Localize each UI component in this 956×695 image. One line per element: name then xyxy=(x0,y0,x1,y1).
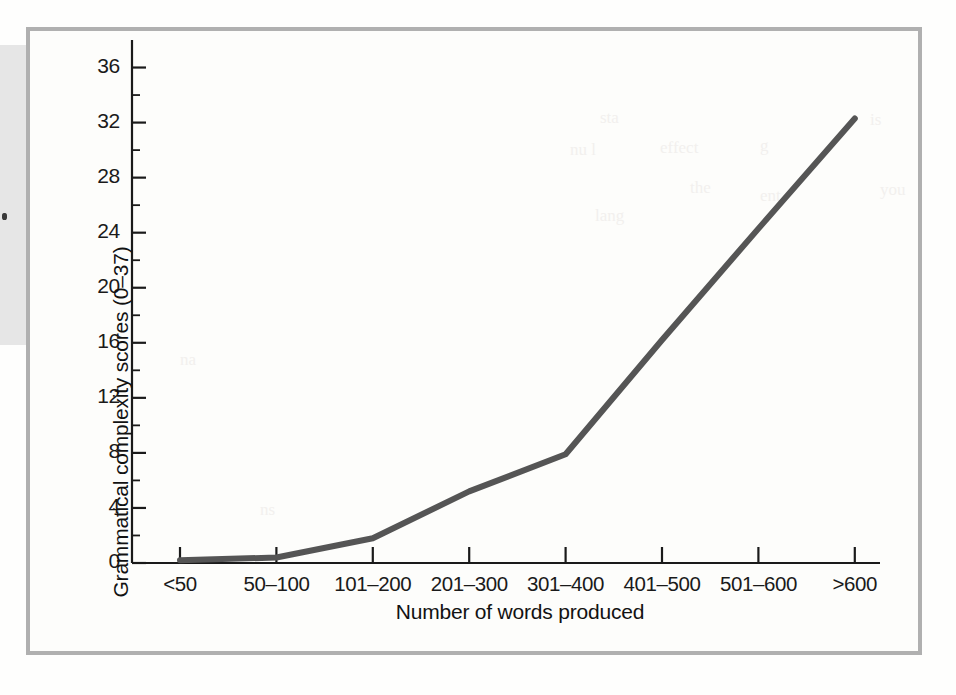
scan-speck-artifact xyxy=(2,213,7,220)
x-axis-title: Number of words produced xyxy=(180,600,860,624)
page-edge-shadow-band xyxy=(0,45,28,345)
y-axis-title-wrapper: Grammatical complexity scores (0–37) xyxy=(68,110,92,510)
y-axis-title: Grammatical complexity scores (0–37) xyxy=(109,232,133,612)
bleed-through-text: is xyxy=(870,110,881,130)
bleed-through-text: lang xyxy=(595,206,624,226)
bleed-through-text: g xyxy=(760,136,769,156)
bleed-through-text: ns xyxy=(260,500,275,520)
figure-frame xyxy=(26,27,922,655)
bleed-through-text: you xyxy=(880,180,906,200)
bleed-through-text: sta xyxy=(600,108,619,128)
bleed-through-text: nu l xyxy=(570,140,596,160)
bleed-through-text: na xyxy=(180,350,196,370)
bleed-through-text: effect xyxy=(660,138,698,158)
bleed-through-text: the xyxy=(690,178,711,198)
y-axis-tick-label: 36 xyxy=(78,54,120,78)
x-axis-tick-label: >600 xyxy=(795,572,915,596)
bleed-through-text: ent xyxy=(760,186,781,206)
